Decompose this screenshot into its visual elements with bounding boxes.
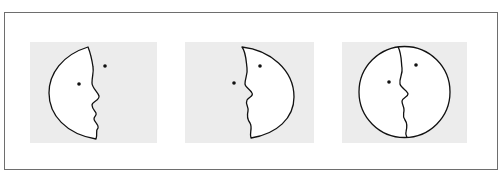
outer-dot: [232, 81, 236, 85]
figure-drawing: [0, 0, 501, 175]
circle-two-faces: [359, 47, 450, 138]
crescent-face-shape: [242, 47, 294, 138]
crescent-face-shape: [49, 47, 99, 139]
outer-dot: [103, 64, 107, 68]
right-eye-dot: [414, 63, 418, 67]
left-eye-dot: [387, 80, 391, 84]
circle-face-shape: [359, 47, 450, 138]
left-crescent-face: [49, 47, 107, 139]
right-crescent-face: [232, 47, 294, 138]
eye-dot: [258, 64, 262, 68]
eye-dot: [77, 82, 81, 86]
